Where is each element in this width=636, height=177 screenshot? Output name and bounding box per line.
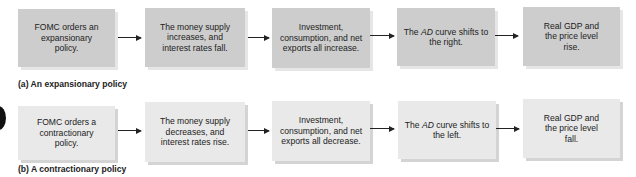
arrow-right-icon	[495, 35, 518, 36]
caption-expansionary: (a) An expansionary policy	[18, 79, 127, 89]
step-real-gdp: Real GDP and the price level fall.	[523, 99, 620, 158]
step-fomc-orders: FOMC orders an expansionary policy.	[18, 9, 115, 67]
ad-abbrev: AD	[422, 120, 434, 130]
arrow-right-icon	[370, 35, 394, 36]
step-real-gdp: Real GDP and the price level rise.	[523, 7, 620, 66]
step-money-supply: The money supply increases, and interest…	[145, 8, 245, 67]
arrow-right-icon	[248, 130, 269, 131]
step-text: FOMC orders a contractionary policy.	[37, 117, 96, 148]
step-text: curve shifts to the right.	[429, 27, 488, 48]
step-text: The money supply decreases, and interest…	[160, 116, 230, 147]
step-text: The	[404, 27, 421, 37]
arrow-right-icon	[118, 130, 141, 131]
step-ad-curve: The AD curve shifts to the left.	[398, 101, 496, 159]
step-text: The	[405, 120, 422, 130]
arrow-right-icon	[370, 128, 394, 129]
arrow-right-icon	[248, 37, 269, 38]
step-text: Investment, consumption, and net exports…	[280, 115, 362, 146]
ad-abbrev: AD	[421, 27, 433, 37]
step-text: Real GDP and the price level fall.	[544, 113, 599, 144]
step-text: curve shifts to the left.	[433, 120, 489, 141]
step-text: FOMC orders an expansionary policy.	[35, 22, 99, 53]
step-investment: Investment, consumption, and net exports…	[272, 8, 370, 68]
step-text: The money supply increases, and interest…	[160, 22, 230, 53]
step-text: Investment, consumption, and net exports…	[280, 22, 362, 53]
arrow-right-icon	[496, 128, 519, 129]
step-investment: Investment, consumption, and net exports…	[272, 101, 370, 161]
step-text: Real GDP and the price level rise.	[544, 21, 599, 52]
step-fomc-orders: FOMC orders a contractionary policy.	[18, 106, 115, 160]
page-marker-dot	[0, 106, 6, 130]
step-money-supply: The money supply decreases, and interest…	[145, 102, 245, 162]
arrow-right-icon	[118, 37, 141, 38]
caption-contractionary: (b) A contractionary policy	[18, 164, 126, 174]
step-ad-curve: The AD curve shifts to the right.	[397, 8, 495, 66]
